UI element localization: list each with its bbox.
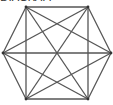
vertex-C <box>110 52 113 55</box>
edge-BF <box>3 7 88 53</box>
hexagon-complete-graph <box>0 0 113 105</box>
edge-AC <box>26 7 111 53</box>
vertex-F <box>2 52 5 55</box>
vertex-A <box>25 6 28 9</box>
edge-CE <box>26 53 111 99</box>
edge-DF <box>3 53 88 99</box>
vertex-B <box>87 6 90 9</box>
vertex-D <box>87 98 90 101</box>
vertex-E <box>25 98 28 101</box>
